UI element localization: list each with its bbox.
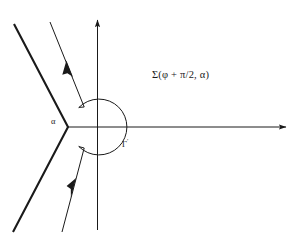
contour-label: Γ′ xyxy=(122,138,128,148)
contour-lower-ray xyxy=(62,148,84,232)
angle-label: α xyxy=(51,117,55,126)
sector-wedge-boundary xyxy=(13,24,68,232)
contour-upper-ray xyxy=(50,22,84,107)
figure-canvas: Σ(φ + π/2, α) Γ′ α xyxy=(0,0,303,239)
contour-diagram-svg xyxy=(0,0,303,239)
contour-label-prime: ′ xyxy=(127,137,128,144)
sector-label: Σ(φ + π/2, α) xyxy=(152,70,209,81)
